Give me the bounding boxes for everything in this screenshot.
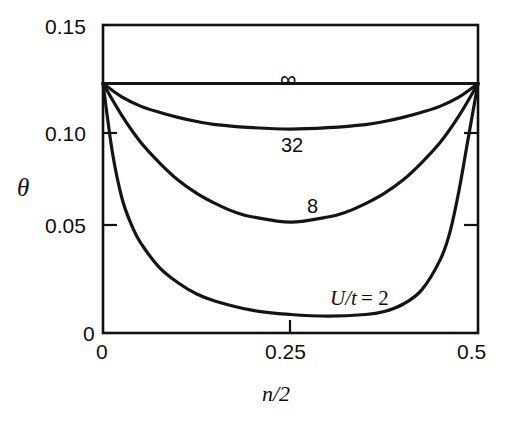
data-curves [103,84,478,317]
curve-label-infinity: ∞ [280,68,296,91]
y-tick-label-0.05: 0.05 [45,215,86,236]
y-tick-label-0.10: 0.10 [45,123,86,144]
chart-figure: θ n/2 0.15 0.10 0.05 0 0 0.25 0.5 ∞ 32 8… [0,0,520,422]
x-axis-title: n/2 [262,383,290,405]
x-tick-label-0.5: 0.5 [457,341,486,362]
x-tick-label-0: 0 [96,341,108,362]
y-tick-label-0: 0 [83,323,95,344]
curve-label-u-over-t-symbol: U/t [330,286,357,310]
curve-u-t-2 [103,84,478,317]
curve-label-8: 8 [307,196,318,216]
curve-label-u-over-t: U/t = 2 [330,288,389,309]
y-tick-label-0.15: 0.15 [45,16,86,37]
x-tick-label-0.25: 0.25 [265,341,306,362]
y-axis-title: θ [17,175,29,200]
curve-label-u-over-t-value: = 2 [361,286,389,310]
curve-label-32: 32 [281,135,303,155]
plot-canvas [0,0,520,422]
